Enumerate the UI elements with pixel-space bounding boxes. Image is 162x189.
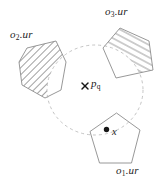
label-o2-rest: .ur <box>20 28 33 40</box>
query-point-marker <box>82 83 88 89</box>
label-sample-point: x <box>112 127 117 138</box>
label-query-point: pq <box>91 78 101 89</box>
label-o3-rest: .ur <box>115 5 128 17</box>
label-o1-ur: o1.ur <box>116 165 139 176</box>
label-o1-rest: .ur <box>126 164 139 176</box>
label-o3-ur: o3.ur <box>105 6 128 17</box>
uncertainty-region-o3-hatch <box>103 28 153 78</box>
label-pq-sub: q <box>97 82 101 91</box>
label-o2-ur: o2.ur <box>10 29 33 40</box>
uncertainty-region-o1-outline <box>90 113 140 163</box>
sample-point-dot <box>104 127 109 132</box>
uncertainty-regions-diagram: o2.ur o3.ur o1.ur pq x <box>0 0 162 189</box>
